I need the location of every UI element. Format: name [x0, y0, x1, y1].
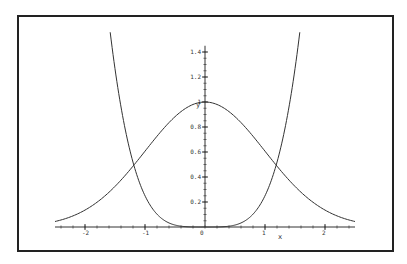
y-tick-label: 0.2 — [190, 198, 201, 205]
y-tick-label: 0.6 — [190, 148, 201, 155]
x-axis-label: x — [278, 233, 282, 241]
origin-label: 0 — [200, 229, 204, 236]
x-tick-label: -2 — [82, 229, 90, 236]
axes: -2-1120.20.40.60.811.21.4 — [55, 46, 355, 236]
x-tick-label: 1 — [262, 229, 266, 236]
line-chart: -2-1120.20.40.60.811.21.4 x y 0 — [0, 0, 407, 264]
x-tick-label: 2 — [322, 229, 326, 236]
x-tick-label: -1 — [142, 229, 150, 236]
y-tick-label: 0.4 — [190, 173, 201, 180]
y-tick-label: 1.4 — [190, 48, 201, 55]
y-tick-label: 1.2 — [190, 73, 201, 80]
y-tick-label: 0.8 — [190, 123, 201, 130]
y-axis-label: y — [196, 101, 200, 109]
